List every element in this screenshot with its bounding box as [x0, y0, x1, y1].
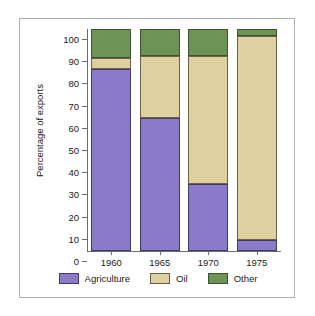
- bar-segment-other: [188, 29, 228, 56]
- stacked-bar: [188, 29, 228, 251]
- agriculture-swatch: [59, 273, 79, 284]
- y-tick-label: 40: [68, 167, 79, 178]
- bar-segment-oil: [140, 56, 180, 118]
- legend-item-other[interactable]: Other: [208, 273, 258, 284]
- legend-item-oil[interactable]: Oil: [150, 273, 188, 284]
- legend-label: Other: [234, 273, 258, 284]
- y-tick-label: 10: [68, 233, 79, 244]
- bar-segment-oil: [188, 56, 228, 185]
- stacked-bar: [91, 29, 131, 251]
- y-tick: [82, 150, 87, 151]
- y-tick: [82, 172, 87, 173]
- y-tick: [82, 83, 87, 84]
- x-tick-label: 1960: [101, 257, 122, 268]
- bar-segment-other: [91, 29, 131, 58]
- x-tick: [257, 251, 258, 255]
- oil-swatch: [150, 273, 170, 284]
- x-tick-label: 1975: [246, 257, 267, 268]
- chart-legend: AgricultureOilOther: [20, 273, 296, 284]
- chart-figure: Percentage of exports 010203040506070809…: [19, 18, 295, 298]
- x-tick-label: 1970: [198, 257, 219, 268]
- y-tick: [82, 128, 87, 129]
- y-tick-label: 90: [68, 56, 79, 67]
- x-tick: [160, 251, 161, 255]
- y-tick-label: 50: [68, 145, 79, 156]
- x-axis-line: [87, 251, 281, 252]
- y-tick-label: 0: [74, 256, 79, 267]
- y-tick: [82, 39, 87, 40]
- y-tick: [82, 61, 87, 62]
- other-swatch: [208, 273, 228, 284]
- y-tick: [82, 106, 87, 107]
- y-tick: [82, 261, 87, 262]
- legend-label: Oil: [176, 273, 188, 284]
- y-tick-label: 60: [68, 122, 79, 133]
- stacked-bar: [140, 29, 180, 251]
- y-tick-label: 100: [63, 34, 79, 45]
- y-axis-line: [87, 29, 88, 251]
- legend-label: Agriculture: [85, 273, 130, 284]
- bar-segment-agriculture: [140, 118, 180, 251]
- y-tick: [82, 239, 87, 240]
- x-tick-label: 1965: [149, 257, 170, 268]
- y-axis-title: Percentage of exports: [34, 56, 45, 206]
- bar-segment-oil: [237, 36, 277, 240]
- bar-segment-agriculture: [237, 240, 277, 251]
- bar-segment-agriculture: [188, 184, 228, 251]
- y-tick: [82, 194, 87, 195]
- legend-item-agriculture[interactable]: Agriculture: [59, 273, 130, 284]
- bar-segment-agriculture: [91, 69, 131, 251]
- bar-segment-other: [140, 29, 180, 56]
- y-tick: [82, 217, 87, 218]
- x-tick: [111, 251, 112, 255]
- stacked-bar: [237, 29, 277, 251]
- y-tick-label: 70: [68, 100, 79, 111]
- bar-segment-oil: [91, 58, 131, 69]
- x-tick: [208, 251, 209, 255]
- bar-segment-other: [237, 29, 277, 36]
- y-tick-label: 20: [68, 211, 79, 222]
- y-tick-label: 30: [68, 189, 79, 200]
- y-tick-label: 80: [68, 78, 79, 89]
- plot-area: 0102030405060708090100 1960196519701975: [87, 29, 281, 261]
